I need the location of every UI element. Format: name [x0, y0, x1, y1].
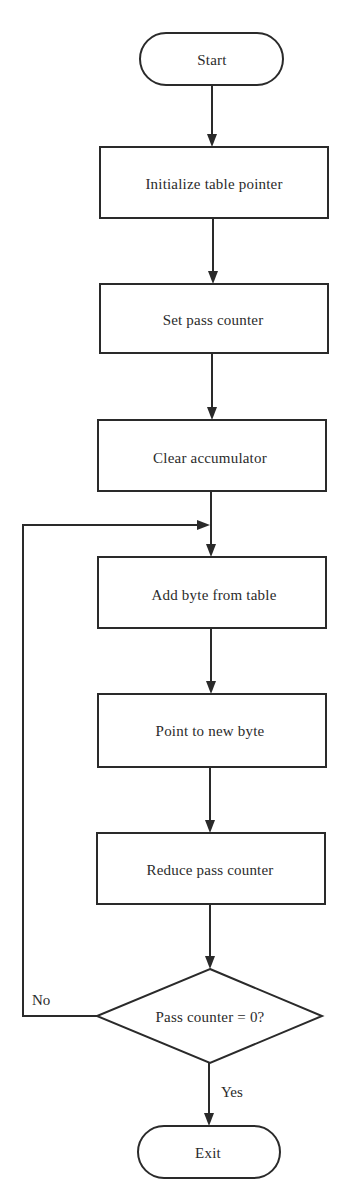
exit-label: Exit [195, 1145, 221, 1162]
branch-yes-label: Yes [221, 1084, 243, 1101]
arrowhead-icon [205, 956, 215, 969]
arrowhead-right-icon [197, 520, 210, 530]
arrowhead-icon [208, 271, 218, 284]
branch-no-label: No [32, 992, 50, 1009]
set-counter-label: Set pass counter [163, 312, 264, 329]
decision-label: Pass counter = 0? [156, 1009, 265, 1026]
arrowhead-icon [207, 134, 217, 147]
clear-accumulator-label: Clear accumulator [153, 450, 267, 467]
arrowhead-icon [206, 681, 216, 694]
start-label: Start [197, 52, 226, 69]
arrowhead-icon [204, 1113, 214, 1126]
reduce-counter-label: Reduce pass counter [146, 862, 273, 879]
arrowhead-icon [206, 544, 216, 557]
add-byte-label: Add byte from table [151, 587, 276, 604]
arrowhead-icon [205, 820, 215, 833]
point-new-byte-label: Point to new byte [156, 723, 265, 740]
init-pointer-label: Initialize table pointer [145, 176, 282, 193]
arrowhead-icon [207, 407, 217, 420]
